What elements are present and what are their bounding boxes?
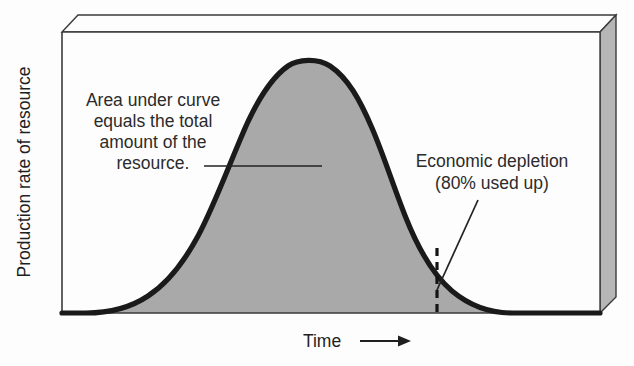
area-note-line-1: Area under curve: [86, 90, 220, 110]
hubbert-curve-figure: Production rate of resource Time Area un…: [0, 0, 634, 366]
x-axis-label: Time: [303, 331, 341, 351]
figure-container: Production rate of resource Time Area un…: [0, 0, 634, 366]
y-axis-label: Production rate of resource: [14, 66, 34, 277]
box-top-face: [62, 15, 616, 32]
area-note-line-3: amount of the: [99, 132, 206, 152]
area-note-line-4: resource.: [117, 153, 190, 173]
depletion-note-line-1: Economic depletion: [416, 151, 569, 171]
box-right-face: [600, 15, 616, 313]
depletion-note-line-2: (80% used up): [435, 173, 549, 193]
arrow-right-icon: [360, 336, 411, 347]
area-note-line-2: equals the total: [94, 111, 213, 131]
